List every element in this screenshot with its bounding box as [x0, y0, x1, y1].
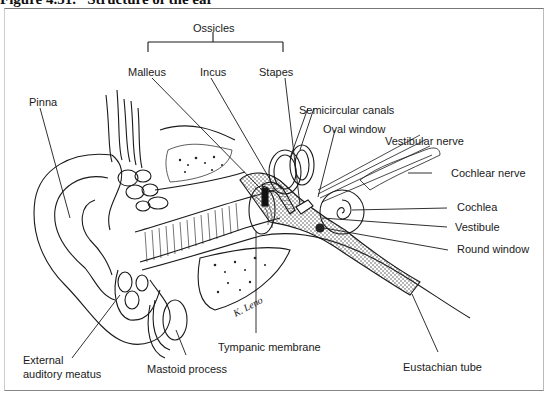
ossicles-bracket [148, 32, 283, 52]
cochlea-shape [320, 190, 364, 234]
round-window-shape [316, 224, 324, 232]
skull-lines [106, 90, 245, 190]
cartilage-upper [118, 170, 168, 211]
label-vestibule: Vestibule [455, 221, 500, 234]
label-pinna: Pinna [29, 96, 57, 109]
ear-anatomy-drawing [0, 0, 550, 394]
label-incus: Incus [200, 66, 226, 79]
label-tympanic-membrane: Tympanic membrane [218, 341, 321, 354]
label-stapes: Stapes [259, 66, 293, 79]
label-semicircular-canals: Semicircular canals [299, 104, 394, 117]
label-mastoid-process: Mastoid process [147, 363, 227, 376]
mastoid-process-shape [148, 300, 187, 358]
label-vestibular-nerve: Vestibular nerve [385, 135, 464, 148]
label-eustachian-tube: Eustachian tube [403, 361, 482, 374]
label-oval-window: Oval window [323, 123, 385, 136]
label-ossicles: Ossicles [193, 22, 235, 35]
label-malleus: Malleus [128, 66, 166, 79]
malleus-shape [262, 188, 268, 206]
label-round-window: Round window [457, 243, 529, 256]
label-cochlea: Cochlea [457, 201, 497, 214]
label-external-auditory-meatus-line2: auditory meatus [23, 368, 101, 381]
label-cochlear-nerve: Cochlear nerve [451, 167, 526, 180]
pinna-shape [34, 154, 170, 344]
label-external-auditory-meatus-line1: External [23, 354, 63, 367]
leader-lines [40, 78, 448, 358]
